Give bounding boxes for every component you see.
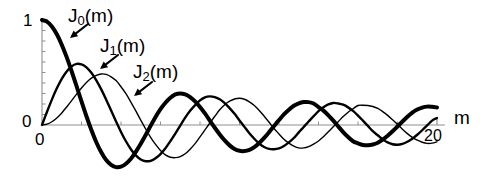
x-axis-tick-label-20: 20 <box>424 128 442 144</box>
curve-label-j2-sub: 2 <box>143 69 150 84</box>
curve-label-j2-tail: (m) <box>150 61 178 82</box>
y-axis-tick-label-0: 0 <box>22 113 31 130</box>
curve-label-j0-sub: 0 <box>78 13 85 28</box>
curve-label-j0: J0(m) <box>68 6 113 25</box>
curve-label-j1-sub: 1 <box>110 43 117 58</box>
curve-j1m <box>42 64 437 162</box>
y-axis-tick-label-1: 1 <box>23 12 32 29</box>
x-axis-name-label: m <box>454 108 470 127</box>
curve-label-j2-main: J <box>133 61 143 82</box>
curve-j2m <box>42 74 437 158</box>
bessel-function-plot: 1 0 0 20 m J0(m) J1(m) J2(m) <box>0 0 490 178</box>
x-axis-tick-label-0: 0 <box>35 131 44 148</box>
curve-label-j2: J2(m) <box>133 62 178 81</box>
curve-label-j0-main: J <box>68 5 78 26</box>
curve-label-j1: J1(m) <box>100 36 145 55</box>
curve-label-j1-main: J <box>100 35 110 56</box>
curve-label-j0-tail: (m) <box>85 5 113 26</box>
plot-canvas <box>0 0 490 178</box>
curve-label-j1-tail: (m) <box>117 35 145 56</box>
